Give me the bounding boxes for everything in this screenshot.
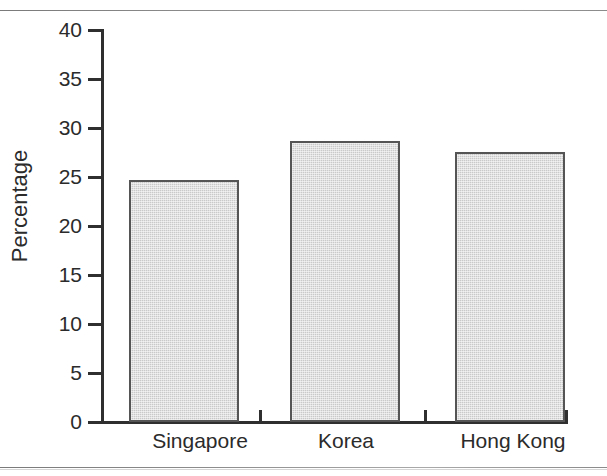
y-axis-tick-mark: [88, 78, 102, 81]
y-axis-tick-label: 0: [30, 411, 82, 432]
y-axis-tick-mark: [88, 225, 102, 228]
y-axis-tick-label-text: 10: [36, 313, 82, 334]
y-axis-tick-mark: [88, 127, 102, 130]
y-axis-tick-mark: [88, 323, 102, 326]
x-axis-tick-2: [424, 410, 427, 423]
y-axis-tick-label: 30: [30, 117, 82, 138]
y-axis-tick-label-text: 30: [36, 117, 82, 138]
y-axis-title: Percentage: [9, 126, 31, 286]
y-axis-tick-label-text: 20: [36, 215, 82, 236]
page-rule-bottom-shadow: [0, 469, 607, 470]
y-axis-tick-mark: [88, 372, 102, 375]
x-axis-label-hong-kong: Hong Kong: [413, 429, 607, 453]
y-axis-tick-label-text: 35: [36, 68, 82, 89]
y-axis-tick-label: 15: [30, 264, 82, 285]
y-axis-tick-label: 35: [30, 68, 82, 89]
y-axis-tick-label-text: 40: [36, 19, 82, 40]
y-axis-tick-label: 25: [30, 166, 82, 187]
x-axis-tick-end: [565, 410, 568, 423]
y-axis-tick-mark: [88, 274, 102, 277]
y-axis-tick-mark: [88, 29, 102, 32]
y-axis-tick-label-text: 15: [36, 264, 82, 285]
bar-hong-kong: [455, 152, 565, 422]
y-axis-tick-label-text: 5: [36, 362, 82, 383]
y-axis-tick-label-text: 25: [36, 166, 82, 187]
y-axis-tick-label: 10: [30, 313, 82, 334]
bar-singapore: [129, 180, 239, 422]
page-rule-bottom: [0, 467, 607, 468]
y-axis-tick-mark: [88, 421, 102, 424]
bar-korea: [290, 141, 400, 422]
y-axis-tick-label-text: 0: [36, 411, 82, 432]
bar-chart-figure: Percentage 4035302520151050 SingaporeKor…: [0, 0, 607, 476]
x-axis-tick-1: [259, 410, 262, 423]
y-axis-tick-label: 5: [30, 362, 82, 383]
y-axis-tick-label: 20: [30, 215, 82, 236]
y-axis-tick-mark: [88, 176, 102, 179]
y-axis-tick-label: 40: [30, 19, 82, 40]
